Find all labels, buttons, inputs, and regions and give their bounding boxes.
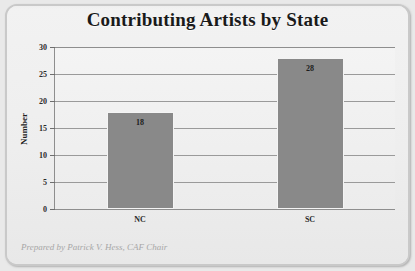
gridline — [55, 74, 395, 75]
chart-title: Contributing Artists by State — [7, 9, 408, 31]
y-tick-label: 10 — [39, 151, 47, 160]
chart-canvas: Contributing Artists by State Number 051… — [7, 6, 408, 264]
y-tick-label: 20 — [39, 97, 47, 106]
y-tick-mark — [50, 101, 55, 102]
x-tick-label-sc: SC — [277, 215, 344, 224]
y-tick-mark — [50, 155, 55, 156]
bar-sc[interactable]: 28 — [277, 58, 344, 209]
y-tick-mark — [50, 47, 55, 48]
y-tick-label: 5 — [43, 178, 47, 187]
bar-value-label: 28 — [278, 64, 343, 73]
gridline — [55, 101, 395, 102]
y-axis-title-label: Number — [19, 113, 29, 145]
chart-frame: Contributing Artists by State Number 051… — [0, 0, 415, 271]
y-tick-mark — [50, 182, 55, 183]
y-tick-mark — [50, 74, 55, 75]
y-tick-label: 30 — [39, 43, 47, 52]
x-tick-label-nc: NC — [107, 215, 174, 224]
y-tick-mark — [50, 128, 55, 129]
y-tick-label: 0 — [43, 205, 47, 214]
y-tick-mark — [50, 209, 55, 210]
chart-card: Contributing Artists by State Number 051… — [5, 4, 410, 266]
y-tick-label: 15 — [39, 124, 47, 133]
plot-area: 05101520253018NC28SC — [54, 47, 395, 210]
bar-nc[interactable]: 18 — [107, 112, 174, 209]
y-tick-label: 25 — [39, 70, 47, 79]
bar-value-label: 18 — [108, 118, 173, 127]
y-axis-title: Number — [17, 47, 31, 210]
gridline — [55, 47, 395, 48]
chart-footnote: Prepared by Patrick V. Hess, CAF Chair — [21, 242, 167, 252]
